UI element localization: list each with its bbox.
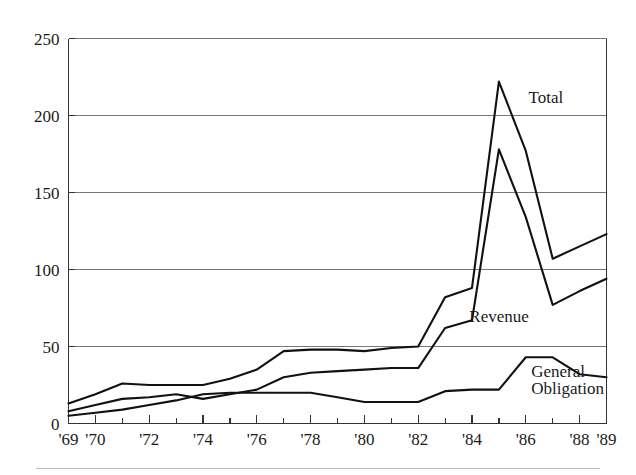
x-tick-marks-group: [69, 415, 607, 424]
chart-container: 050100150200250 '69'70'72'74'76'78'80'82…: [0, 0, 636, 475]
gridlines-group: [69, 39, 607, 347]
x-tick-label-1989: '89: [596, 430, 616, 449]
x-tick-label-1972: '72: [139, 430, 159, 449]
series-annotation-total: Total: [528, 88, 563, 107]
series-line-revenue: [69, 149, 607, 411]
series-line-general-obligation: [69, 357, 607, 416]
y-tick-label-150: 150: [34, 184, 60, 203]
x-tick-label-1982: '82: [408, 430, 428, 449]
x-tick-label-1969: '69: [58, 430, 78, 449]
series-annotation-obligation: Obligation: [531, 379, 604, 398]
y-tick-label-50: 50: [43, 338, 60, 357]
x-tick-label-1978: '78: [301, 430, 321, 449]
x-tick-label-1980: '80: [354, 430, 374, 449]
x-tick-label-1974: '74: [193, 430, 214, 449]
y-tick-label-100: 100: [34, 261, 60, 280]
series-lines-group: [69, 82, 607, 416]
series-annotation-revenue: Revenue: [469, 307, 528, 326]
x-tick-label-1984: '84: [462, 430, 483, 449]
series-line-total: [69, 82, 607, 404]
y-tick-label-250: 250: [34, 30, 60, 49]
x-tick-label-1970: '70: [85, 430, 105, 449]
x-tick-label-1986: '86: [516, 430, 536, 449]
y-axis-tick-labels-group: 050100150200250: [34, 30, 60, 434]
x-tick-label-1976: '76: [247, 430, 267, 449]
y-tick-label-200: 200: [34, 107, 60, 126]
axes-group: [69, 39, 607, 424]
x-axis-tick-labels-group: '69'70'72'74'76'78'80'82'84'86'88'89: [58, 430, 616, 449]
line-chart: 050100150200250 '69'70'72'74'76'78'80'82…: [0, 0, 636, 475]
x-tick-label-1988: '88: [570, 430, 590, 449]
